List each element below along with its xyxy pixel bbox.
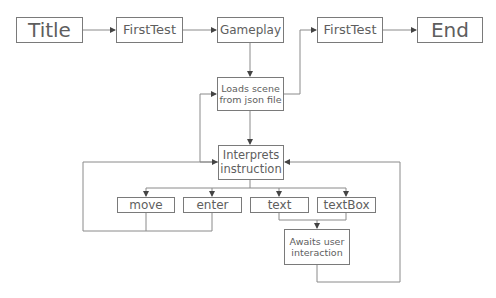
node-gameplay: Gameplay [217, 17, 284, 43]
node-interprets-instruction: Interprets instruction [218, 145, 284, 180]
node-text: text [250, 197, 309, 213]
node-title: Title [16, 17, 83, 43]
node-loads-scene: Loads scene from json file [217, 77, 284, 111]
node-textbox: textBox [317, 197, 376, 213]
node-first-test-1: FirstTest [116, 17, 183, 43]
node-awaits-user-interaction: Awaits user interaction [284, 229, 350, 265]
node-move: move [117, 197, 175, 213]
node-end: End [417, 17, 483, 43]
node-first-test-2: FirstTest [317, 17, 383, 43]
node-enter: enter [183, 197, 242, 213]
flowchart-canvas: Title FirstTest Gameplay FirstTest End L… [0, 0, 496, 298]
